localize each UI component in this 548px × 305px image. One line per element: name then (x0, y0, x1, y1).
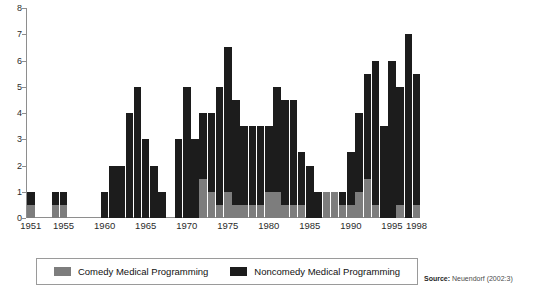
bar-segment-noncomedy (52, 192, 60, 205)
bar-segment-comedy (290, 205, 298, 218)
plot-area: 012345678 195119551960196519701975198019… (0, 8, 448, 240)
y-tick-mark (22, 218, 26, 219)
y-tick-mark (22, 139, 26, 140)
y-tick-label: 2 (0, 161, 22, 170)
bar-group (339, 192, 347, 218)
y-tick-label: 5 (0, 82, 22, 91)
y-tick-label: 4 (0, 109, 22, 118)
bar-group (101, 192, 109, 218)
bar-group (208, 113, 216, 218)
bar-group (126, 113, 134, 218)
bar-segment-noncomedy (364, 74, 372, 179)
y-tick-mark (22, 166, 26, 167)
bar-segment-noncomedy (290, 100, 298, 205)
bar-segment-noncomedy (413, 74, 421, 205)
bar-group (117, 166, 125, 219)
bar-segment-noncomedy (183, 87, 191, 218)
x-tick-label: 1995 (381, 220, 402, 231)
bar-group (265, 126, 273, 218)
bar-group (232, 100, 240, 218)
bar-group (380, 126, 388, 218)
bar-group (323, 192, 331, 218)
y-axis-label-group: 012345678 (0, 8, 22, 230)
bar-segment-noncomedy (208, 113, 216, 192)
legend-label: Comedy Medical Programming (78, 267, 208, 277)
bar-segment-noncomedy (117, 166, 125, 219)
bar-group (60, 192, 68, 218)
bar-segment-noncomedy (257, 126, 265, 205)
bar-segment-noncomedy (249, 126, 257, 205)
bar-segment-noncomedy (142, 139, 150, 218)
bar-group (306, 166, 314, 219)
y-tick-label: 6 (0, 56, 22, 65)
y-tick-mark (22, 192, 26, 193)
bar-segment-noncomedy (396, 87, 404, 205)
x-tick-label: 1955 (53, 220, 74, 231)
bar-segment-comedy (347, 205, 355, 218)
bar-group (158, 192, 166, 218)
bar-segment-comedy (224, 192, 232, 218)
bar-segment-comedy (372, 205, 380, 218)
bar-segment-noncomedy (380, 126, 388, 218)
bar-group (257, 126, 265, 218)
bar-segment-noncomedy (240, 126, 248, 205)
bar-segment-comedy (273, 192, 281, 218)
bar-segment-comedy (323, 192, 331, 218)
y-tick-mark (22, 113, 26, 114)
bar-segment-comedy (199, 179, 207, 218)
bar-group (298, 152, 306, 218)
bar-group (199, 113, 207, 218)
bar-group (183, 87, 191, 218)
bar-segment-noncomedy (347, 152, 355, 205)
x-tick-label: 1985 (299, 220, 320, 231)
bar-segment-comedy (52, 205, 60, 218)
x-tick-label: 1970 (176, 220, 197, 231)
bar-segment-noncomedy (306, 166, 314, 219)
bar-segment-noncomedy (126, 113, 134, 218)
x-tick-label: 1980 (258, 220, 279, 231)
bar-segment-comedy (364, 179, 372, 218)
x-tick-label: 1990 (340, 220, 361, 231)
bar-group (413, 74, 421, 218)
comedy-swatch (54, 267, 71, 276)
bar-segment-comedy (396, 205, 404, 218)
x-tick-label: 1960 (94, 220, 115, 231)
bar-group (175, 139, 183, 218)
bar-segment-noncomedy (372, 61, 380, 205)
bar-segment-comedy (413, 205, 421, 218)
bar-segment-comedy (298, 205, 306, 218)
bar-segment-noncomedy (314, 192, 322, 218)
bar-segment-comedy (27, 205, 35, 218)
bar-group (240, 126, 248, 218)
bar-segment-noncomedy (273, 87, 281, 192)
bar-segment-noncomedy (339, 192, 347, 205)
bar-segment-comedy (257, 205, 265, 218)
y-tick-mark (22, 34, 26, 35)
legend-label: Noncomedy Medical Programming (254, 267, 400, 277)
bar-segment-noncomedy (265, 126, 273, 192)
bar-group (290, 100, 298, 218)
bar-segment-noncomedy (281, 100, 289, 205)
bar-group (372, 61, 380, 219)
bar-group (355, 113, 363, 218)
y-tick-label: 3 (0, 135, 22, 144)
bar-segment-noncomedy (60, 192, 68, 205)
bar-segment-noncomedy (355, 113, 363, 192)
bar-segment-comedy (339, 205, 347, 218)
noncomedy-swatch (230, 267, 247, 276)
bar-segment-comedy (208, 192, 216, 218)
source-label: Source: (424, 275, 450, 282)
y-tick-label: 8 (0, 4, 22, 13)
bar-segment-noncomedy (405, 34, 413, 218)
bar-segment-noncomedy (150, 166, 158, 219)
bar-group (224, 47, 232, 218)
x-axis-label-group: 1951195519601965197019751980198519901995… (27, 220, 427, 236)
y-tick-label: 0 (0, 214, 22, 223)
x-tick-label: 1965 (135, 220, 156, 231)
bar-group (109, 166, 117, 219)
chart-figure: 012345678 195119551960196519701975198019… (0, 0, 548, 305)
bar-segment-comedy (216, 205, 224, 218)
bar-segment-noncomedy (101, 192, 109, 218)
bar-group (396, 87, 404, 218)
source-note: Source: Neuendorf (2002:3) (424, 274, 513, 283)
